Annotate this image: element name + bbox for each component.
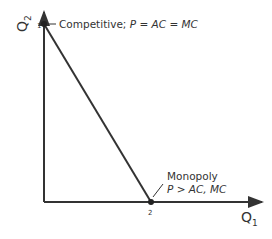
monopoly-leader-line (153, 184, 163, 197)
point-2-label: 2 (148, 209, 152, 217)
competitive-annotation: Competitive; P = AC = MC (59, 18, 199, 30)
x-axis-label: Q1 (241, 209, 258, 228)
point-2 (148, 199, 154, 205)
diagram-canvas: Q2 Q1 1 2 Competitive; P = AC = MC Monop… (0, 0, 272, 239)
y-axis-label: Q2 (14, 15, 33, 32)
frontier-line (44, 24, 151, 202)
point-1 (41, 21, 47, 27)
point-1-label: 1 (37, 22, 41, 30)
monopoly-equation: P > AC, MC (167, 183, 227, 195)
monopoly-title: Monopoly (167, 170, 218, 182)
